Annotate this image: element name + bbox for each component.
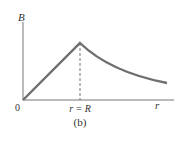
marker-label: r = R — [69, 103, 91, 114]
origin-label: 0 — [15, 102, 20, 113]
b-field-curve — [23, 43, 167, 100]
b-field-diagram: B 0 r = R r (b) — [0, 0, 184, 141]
figure-caption: (b) — [74, 116, 87, 129]
y-axis-label: B — [18, 11, 25, 23]
x-axis-label: r — [155, 99, 160, 111]
